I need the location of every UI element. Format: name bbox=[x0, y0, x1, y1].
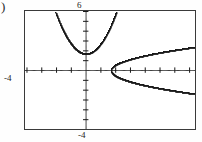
y-min-label: -4 bbox=[78, 131, 86, 140]
graph-screenshot: ) 6 -4 -4 bbox=[0, 0, 202, 142]
x-min-label: -4 bbox=[4, 74, 12, 83]
y-axis bbox=[86, 11, 87, 129]
plot-frame bbox=[24, 10, 196, 130]
part-label: ) bbox=[1, 0, 5, 13]
y-max-label: 6 bbox=[77, 1, 82, 10]
plot-canvas bbox=[25, 11, 195, 129]
rightward-parabola-lower bbox=[111, 70, 195, 94]
x-axis bbox=[25, 70, 195, 71]
rightward-parabola-upper bbox=[111, 47, 195, 71]
curves-group bbox=[55, 12, 195, 94]
